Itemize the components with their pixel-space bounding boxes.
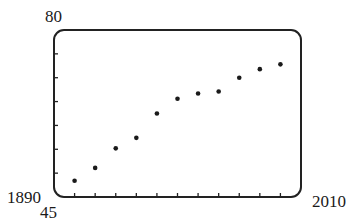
data-point — [72, 178, 77, 183]
scatter-plot — [0, 0, 350, 221]
x-axis-max-label: 2010 — [312, 193, 346, 210]
plot-border — [54, 30, 301, 197]
data-point — [196, 91, 201, 96]
data-point — [155, 111, 160, 116]
data-point — [175, 96, 180, 101]
data-point — [278, 62, 283, 67]
plot-frame — [54, 30, 301, 197]
data-point — [258, 67, 263, 72]
data-point — [113, 146, 118, 151]
data-point — [237, 75, 242, 80]
data-point — [93, 166, 98, 171]
y-axis-min-label: 45 — [40, 204, 57, 221]
data-points — [72, 62, 282, 183]
y-axis-max-label: 80 — [45, 8, 62, 25]
x-axis-min-label: 1890 — [7, 189, 41, 206]
data-point — [134, 136, 139, 141]
data-point — [216, 89, 221, 94]
